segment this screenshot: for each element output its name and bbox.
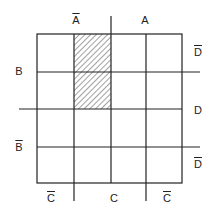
- label-not-c-left: C: [44, 192, 58, 204]
- label-d: D: [191, 104, 205, 116]
- label-not-c-right: C: [160, 192, 174, 204]
- label-not-b: B: [12, 141, 26, 153]
- label-not-a: A: [69, 14, 83, 26]
- label-c: C: [107, 192, 121, 204]
- label-a: A: [138, 14, 152, 26]
- label-not-d-top: D: [191, 46, 205, 58]
- shaded-cell-r0-c1: [74, 34, 111, 72]
- label-not-d-bottom: D: [191, 158, 205, 170]
- shaded-cell-r1-c1: [74, 72, 111, 109]
- karnaugh-map-grid: [0, 0, 213, 216]
- label-b: B: [12, 65, 26, 77]
